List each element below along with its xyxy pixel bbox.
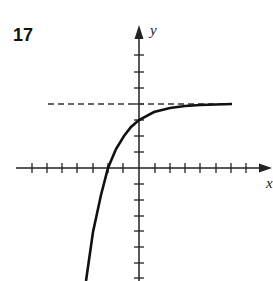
x-axis-arrow-icon — [259, 164, 272, 173]
y-axis-label: y — [148, 22, 157, 38]
curve — [86, 104, 232, 281]
graph: y x — [0, 0, 273, 281]
y-axis-arrow-icon — [135, 25, 144, 39]
x-axis-label: x — [265, 175, 273, 191]
